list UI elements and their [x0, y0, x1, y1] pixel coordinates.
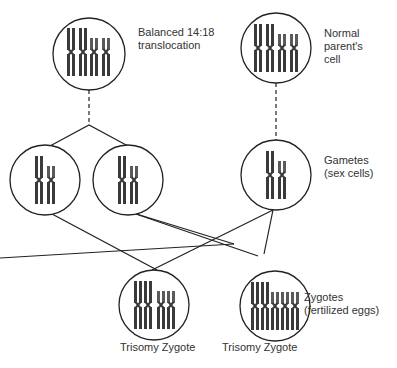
- balanced-parent-cell: [53, 18, 125, 90]
- zygote-2-cell: [240, 271, 310, 341]
- zygote-1-cell: [119, 270, 189, 340]
- branch-to-gametes: [50, 125, 128, 146]
- zygote-1-label: Trisomy Zygote: [120, 341, 195, 354]
- gametes-label: Gametes (sex cells): [324, 154, 374, 180]
- balanced-translocation-label: Balanced 14:18 translocation: [138, 26, 214, 52]
- normal-parent-cell: [241, 13, 311, 83]
- zygotes-label: Zygotes (fertilized eggs): [304, 291, 379, 317]
- normal-parent-label: Normal parent's cell: [324, 27, 363, 66]
- gamete-1-cell: [10, 145, 80, 215]
- line-g3-zygote2: [264, 210, 273, 254]
- gamete-3-cell: [241, 140, 311, 210]
- gamete-2-cell: [93, 145, 163, 215]
- line-gamete1-zygote2: [52, 214, 157, 270]
- zygote-2-label: Trisomy Zygote: [222, 341, 297, 354]
